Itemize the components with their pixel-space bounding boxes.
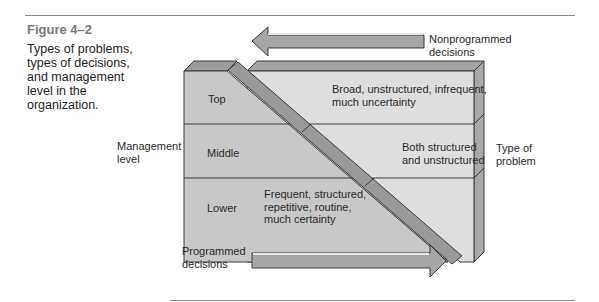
- programmed-label: Programmed decisions: [182, 245, 246, 270]
- nonprogrammed-label: Nonprogrammed decisions: [429, 33, 512, 58]
- level-top: Top: [208, 93, 226, 106]
- level-lower: Lower: [207, 202, 237, 215]
- level-middle: Middle: [207, 147, 239, 160]
- problem-lower: Frequent, structured, repetitive, routin…: [264, 188, 366, 226]
- type-of-problem-label: Type of problem: [496, 142, 536, 167]
- management-level-label: Management level: [117, 140, 181, 165]
- nonprogrammed-arrow: [252, 27, 424, 56]
- problem-top: Broad, unstructured, infrequent, much un…: [332, 83, 487, 108]
- problem-middle: Both structured and unstructured: [402, 141, 485, 166]
